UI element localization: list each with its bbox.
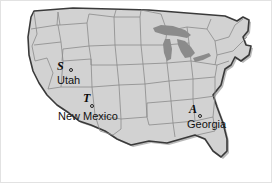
us-map-screenshot: S Utah T New Mexico A Georgia [0,0,272,183]
united-states-map [1,1,272,183]
